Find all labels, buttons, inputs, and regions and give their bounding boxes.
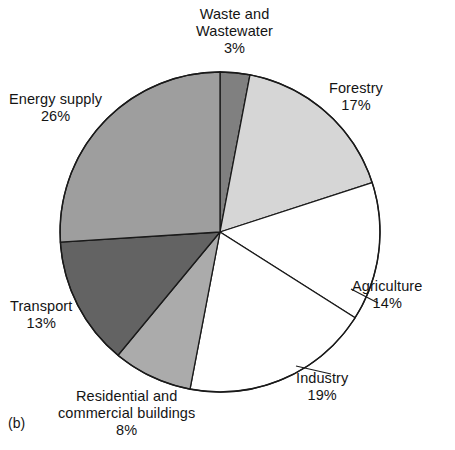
slice-label-forestry: Forestry 17% [329, 80, 383, 114]
slice-label-line1: Forestry [329, 80, 383, 96]
pie-chart [0, 0, 455, 450]
slice-percent: 19% [296, 387, 348, 404]
slice-label-line1: Agriculture [352, 278, 422, 294]
slice-label-line2: Wastewater [196, 23, 273, 39]
slice-percent: 26% [9, 108, 102, 125]
slice-label-industry: Industry 19% [296, 370, 348, 404]
slice-label-line1: Industry [296, 370, 348, 386]
slice-label-line1: Energy supply [9, 91, 102, 107]
slice-label-line1: Waste and [200, 6, 270, 22]
slice-percent: 8% [58, 422, 195, 439]
slice-label-line1: Residential and [76, 388, 177, 404]
slice-label-line2: commercial buildings [58, 405, 195, 421]
slice-label-transport: Transport 13% [10, 298, 72, 332]
slice-label-agriculture: Agriculture 14% [352, 278, 422, 312]
slice-percent: 17% [329, 97, 383, 114]
pie-slices-group [60, 72, 380, 392]
slice-label-residential-and-commercial-buildings: Residential and commercial buildings 8% [58, 388, 195, 439]
slice-label-line1: Transport [10, 298, 72, 314]
slice-percent: 14% [352, 295, 422, 312]
slice-label-energy-supply: Energy supply 26% [9, 91, 102, 125]
figure-container: Waste and Wastewater 3% Forestry 17% Agr… [0, 0, 455, 450]
slice-label-waste-and-wastewater: Waste and Wastewater 3% [196, 6, 273, 57]
slice-percent: 3% [196, 40, 273, 57]
figure-caption: (b) [8, 415, 25, 431]
slice-percent: 13% [10, 315, 72, 332]
